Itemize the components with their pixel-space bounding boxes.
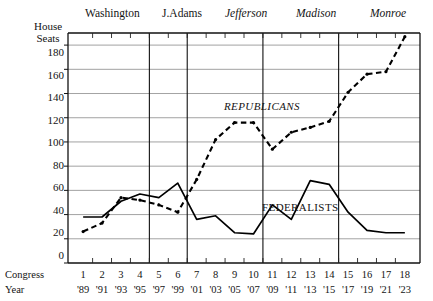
x-tick-congress-18: 18 — [391, 269, 419, 280]
series-point-republicans-9 — [233, 121, 236, 124]
year-row-label: Year — [5, 284, 24, 295]
series-point-republicans-14 — [328, 120, 331, 123]
series-point-republicans-5 — [157, 203, 160, 206]
x-tick-year-23: '23 — [391, 284, 419, 295]
series-point-republicans-8 — [214, 138, 217, 141]
series-point-republicans-16 — [365, 73, 368, 76]
plot-area — [0, 0, 433, 301]
series-label-federalists: FEDERALISTS — [262, 201, 339, 213]
series-point-republicans-17 — [384, 70, 387, 73]
series-line-republicans — [83, 37, 405, 232]
house-seats-chart: Washington J.Adams Jefferson Madison Mon… — [0, 0, 433, 301]
series-point-republicans-10 — [252, 121, 255, 124]
congress-row-label: Congress — [5, 269, 44, 280]
series-point-republicans-1 — [82, 230, 85, 233]
series-point-republicans-6 — [176, 211, 179, 214]
series-line-federalists — [83, 181, 405, 234]
series-point-republicans-3 — [119, 196, 122, 199]
series-point-republicans-15 — [346, 91, 349, 94]
series-point-republicans-4 — [138, 198, 141, 201]
series-label-republicans: REPUBLICANS — [224, 100, 300, 112]
series-point-republicans-12 — [290, 131, 293, 134]
series-point-republicans-11 — [271, 148, 274, 151]
series-point-republicans-18 — [403, 35, 406, 38]
series-point-republicans-2 — [100, 221, 103, 224]
series-point-republicans-13 — [309, 126, 312, 129]
series-point-republicans-7 — [195, 178, 198, 181]
